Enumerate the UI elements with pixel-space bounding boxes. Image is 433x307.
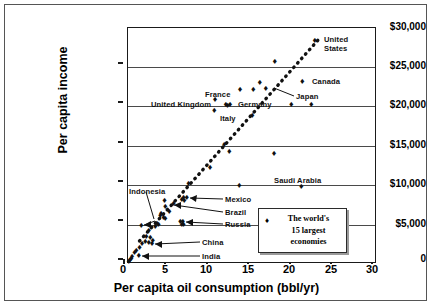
point-label-saudi-arabia: Saudi Arabia bbox=[274, 176, 321, 185]
point-label-united-states-line1: United bbox=[324, 35, 348, 44]
x-axis-tick-20: 20 bbox=[269, 263, 309, 275]
legend-text: The world's 15 largest economies bbox=[274, 213, 343, 248]
x-axis-tick-25: 25 bbox=[311, 263, 351, 275]
y-tick-mark bbox=[118, 180, 123, 182]
x-axis-title: Per capita oil consumption (bbl/yr) bbox=[0, 281, 433, 295]
chart-frame: $30,000 $25,000 $20,000 $15,000 $10,000 … bbox=[4, 4, 427, 301]
legend-line-2: 15 largest bbox=[274, 225, 343, 237]
point-label-germany: Germany bbox=[238, 100, 272, 109]
y-tick-mark bbox=[118, 141, 123, 143]
point-label-china: China bbox=[202, 238, 224, 247]
x-axis-tick-5: 5 bbox=[145, 263, 185, 275]
legend: ♦ The world's 15 largest economies bbox=[258, 208, 347, 253]
point-label-italy: Italy bbox=[220, 114, 236, 123]
legend-line-3: economies bbox=[274, 236, 343, 248]
point-label-india: India bbox=[202, 252, 220, 261]
point-label-united-kingdom: United Kingdom bbox=[151, 100, 211, 109]
point-label-indonesia: Indonesia bbox=[129, 187, 165, 196]
y-tick-mark bbox=[118, 62, 123, 64]
y-tick-mark bbox=[118, 219, 123, 221]
point-label-united-states-line2: States bbox=[324, 44, 347, 53]
gridline-15000 bbox=[128, 146, 375, 147]
y-axis-title: Per capita income bbox=[56, 10, 70, 190]
point-label-russia: Russia bbox=[225, 220, 251, 229]
gridline-10000 bbox=[128, 185, 375, 186]
gridline-25000 bbox=[128, 67, 375, 68]
point-label-canada: Canada bbox=[312, 77, 340, 86]
point-label-brazil: Brazil bbox=[225, 208, 246, 217]
point-label-japan: Japan bbox=[296, 92, 318, 101]
x-axis-tick-0: 0 bbox=[103, 263, 143, 275]
legend-line-1: The world's bbox=[274, 213, 343, 225]
legend-marker-icon: ♦ bbox=[265, 217, 269, 225]
x-axis-tick-30: 30 bbox=[352, 263, 392, 275]
x-axis-tick-15: 15 bbox=[228, 263, 268, 275]
point-label-mexico: Mexico bbox=[225, 195, 251, 204]
point-label-france: France bbox=[205, 90, 231, 99]
x-axis-tick-10: 10 bbox=[186, 263, 226, 275]
y-tick-mark bbox=[118, 101, 123, 103]
